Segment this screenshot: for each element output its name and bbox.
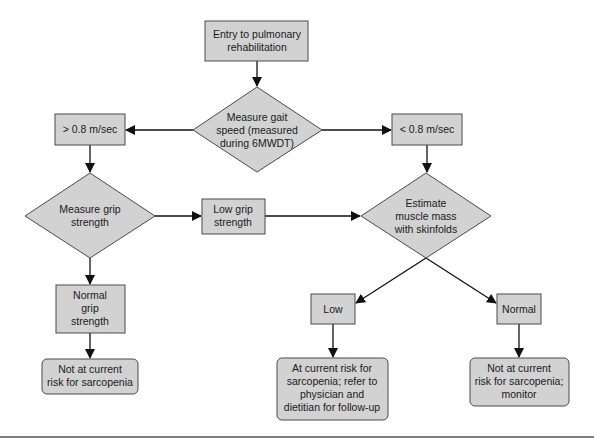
node-low-grip: Low grip strength <box>202 199 265 234</box>
outcome-at-risk-line-3: physician and <box>300 388 364 400</box>
outcome-at-risk-line-4: dietitian for follow-up <box>284 401 380 413</box>
outcome-at-risk-line-1: At current risk for <box>292 362 372 374</box>
decision-skinfolds-line-1: Estimate <box>406 197 447 209</box>
node-low-grip-line-2: strength <box>214 216 252 228</box>
node-normal-grip-line-3: strength <box>71 315 109 327</box>
decision-gait-speed: Measure gait speed (measured during 6MWD… <box>193 87 322 172</box>
node-low-muscle-mass: Low <box>311 294 355 324</box>
outcome-monitor-line-3: monitor <box>501 388 537 400</box>
node-normal-mass-line-1: Normal <box>502 303 536 315</box>
outcome-not-at-risk: Not at current risk for sarcopenia <box>42 359 138 394</box>
node-low-grip-line-1: Low grip <box>213 203 253 215</box>
outcome-at-risk-line-2: sarcopenia; refer to <box>287 375 378 387</box>
decision-gait-line-1: Measure gait <box>227 111 288 123</box>
decision-grip-strength: Measure grip strength <box>25 173 155 258</box>
node-normal-muscle-mass: Normal <box>497 294 541 324</box>
node-fast-gait: > 0.8 m/sec <box>55 114 125 145</box>
outcome-monitor-line-2: risk for sarcopenia; <box>475 375 564 387</box>
node-normal-grip-line-1: Normal <box>73 289 107 301</box>
node-slow-gait: < 0.8 m/sec <box>392 114 462 145</box>
flowchart: Entry to pulmonary rehabilitation Measur… <box>0 0 594 443</box>
node-entry: Entry to pulmonary rehabilitation <box>205 21 308 61</box>
decision-grip-line-1: Measure grip <box>59 203 120 215</box>
node-slow-line-1: < 0.8 m/sec <box>400 123 455 135</box>
edge-skinfolds-to-low <box>356 258 426 303</box>
decision-skinfolds-line-2: muscle mass <box>395 210 456 222</box>
outcome-monitor: Not at current risk for sarcopenia; moni… <box>470 358 569 406</box>
outcome-at-risk: At current risk for sarcopenia; refer to… <box>277 358 388 420</box>
decision-skinfolds-line-3: with skinfolds <box>394 223 457 235</box>
node-fast-line-1: > 0.8 m/sec <box>63 123 118 135</box>
edge-skinfolds-to-normal <box>426 258 496 303</box>
decision-grip-line-2: strength <box>71 216 109 228</box>
node-normal-grip: Normal grip strength <box>56 285 125 333</box>
decision-gait-line-3: during 6MWDT) <box>220 137 294 149</box>
outcome-not-risk-line-1: Not at current <box>58 363 122 375</box>
node-low-mass-line-1: Low <box>323 303 343 315</box>
outcome-not-risk-line-2: risk for sarcopenia <box>47 376 133 388</box>
decision-skinfolds: Estimate muscle mass with skinfolds <box>361 173 491 258</box>
node-normal-grip-line-2: grip <box>81 302 99 314</box>
decision-gait-line-2: speed (measured <box>216 124 298 136</box>
node-entry-line-1: Entry to pulmonary <box>213 28 302 40</box>
outcome-monitor-line-1: Not at current <box>487 362 551 374</box>
node-entry-line-2: rehabilitation <box>227 41 287 53</box>
